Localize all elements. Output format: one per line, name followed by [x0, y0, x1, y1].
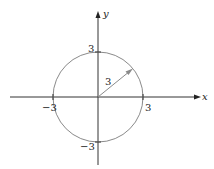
- radius-label: 3: [105, 77, 111, 87]
- diagram: y x 3 −3 −3 3 3: [0, 0, 214, 169]
- tick-label-x-neg: −3: [42, 103, 57, 113]
- x-axis-label: x: [202, 92, 208, 102]
- tick-label-y-pos: 3: [88, 44, 94, 54]
- radius-line: [98, 71, 130, 97]
- y-axis-label: y: [103, 9, 109, 19]
- y-axis-arrow-icon: [96, 11, 101, 18]
- tick-label-y-neg: −3: [80, 142, 95, 152]
- tick-label-x-pos: 3: [145, 103, 151, 113]
- x-axis-arrow-icon: [194, 95, 201, 100]
